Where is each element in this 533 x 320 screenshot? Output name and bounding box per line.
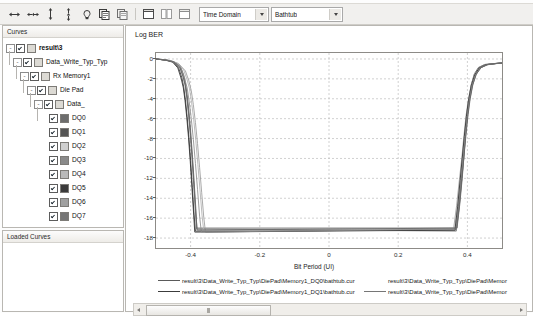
legend-horizontal-scrollbar[interactable] <box>133 303 527 316</box>
tree-node-datawritetyptyp[interactable]: -Data_Write_Typ_Typ <box>3 55 123 69</box>
checkbox-icon[interactable] <box>44 100 53 109</box>
tree-node-die pad[interactable]: -Die Pad <box>3 83 123 97</box>
legend-entry: result\3\Data_Write_Typ_Typ\DiePad\Memor <box>364 286 507 297</box>
checkbox-icon[interactable] <box>49 114 58 123</box>
tree-node-ldqs-ldqs[interactable]: LDQS-LDQS# <box>3 223 123 226</box>
scrollbar-track[interactable] <box>143 305 517 314</box>
tree-node-label: DQ4 <box>72 170 86 178</box>
tree-node-dq7[interactable]: DQ7 <box>3 209 123 223</box>
x-axis-title-text: Bit Period (UI) <box>294 263 334 270</box>
tree-spacer <box>41 185 48 192</box>
collapse-icon[interactable]: - <box>13 58 22 67</box>
tree-node-dq3[interactable]: DQ3 <box>3 153 123 167</box>
tree-node-result3[interactable]: -result\3 <box>3 41 123 55</box>
domain-select[interactable]: Time Domain <box>199 7 269 22</box>
vertical-delta-cursor-icon[interactable] <box>61 6 76 22</box>
legend-column-right: result\3\Data_Write_Typ_Typ\DiePad\Memor… <box>364 275 507 297</box>
horizontal-delta-cursor-icon[interactable] <box>25 6 40 22</box>
tile-window-icon[interactable] <box>159 6 174 22</box>
y-axis-tick-mark <box>153 177 156 178</box>
folder-icon <box>34 58 43 67</box>
checkbox-icon[interactable] <box>30 72 39 81</box>
x-axis-tick-label: -0.4 <box>185 251 196 258</box>
y-axis-tick-mark <box>153 237 156 238</box>
tree-node-dq4[interactable]: DQ4 <box>3 167 123 181</box>
curve-color-swatch <box>60 114 69 123</box>
curve-color-swatch <box>60 142 69 151</box>
tree-node-dq1[interactable]: DQ1 <box>3 125 123 139</box>
tree-node-label: DQ7 <box>72 212 86 220</box>
checkbox-icon[interactable] <box>49 226 58 227</box>
x-axis-title: Bit Period (UI) <box>126 263 532 270</box>
collapse-icon[interactable]: - <box>34 100 43 109</box>
loaded-curves-panel-header: Loaded Curves <box>3 231 123 243</box>
scroll-right-arrow-icon[interactable] <box>517 305 526 314</box>
copy-plot-icon[interactable] <box>97 6 112 22</box>
legend-label: result\3\Data_Write_Typ_Typ\DiePad\Memor… <box>182 289 355 295</box>
new-window-icon[interactable] <box>141 6 156 22</box>
checkbox-icon[interactable] <box>49 128 58 137</box>
curve-color-swatch <box>60 184 69 193</box>
curves-tree[interactable]: -result\3-Data_Write_Typ_Typ-Rx Memory1-… <box>3 38 123 226</box>
tree-node-label: DQ6 <box>72 198 86 206</box>
tree-node-dq6[interactable]: DQ6 <box>3 195 123 209</box>
checkbox-icon[interactable] <box>49 198 58 207</box>
checkbox-icon[interactable] <box>16 44 25 53</box>
checkbox-icon[interactable] <box>49 184 58 193</box>
collapse-icon[interactable]: - <box>27 86 36 95</box>
tree-spacer <box>41 129 48 136</box>
curve-color-swatch <box>60 226 69 227</box>
tree-node-dq2[interactable]: DQ2 <box>3 139 123 153</box>
y-axis-tick-mark <box>153 58 156 59</box>
chevron-down-icon[interactable] <box>329 9 341 20</box>
scrollbar-grip <box>207 308 210 313</box>
tree-node-dq5[interactable]: DQ5 <box>3 181 123 195</box>
vertical-cursor-icon[interactable] <box>43 6 58 22</box>
toolbar-icon-group <box>0 6 192 22</box>
maximize-window-icon[interactable] <box>177 6 192 22</box>
loaded-curves-list[interactable] <box>3 243 123 320</box>
tree-node-label: Data_Write_Typ_Typ <box>46 58 107 66</box>
chevron-down-icon[interactable] <box>255 9 267 20</box>
tree-node-data[interactable]: -Data_ <box>3 97 123 111</box>
checkbox-icon[interactable] <box>49 142 58 151</box>
tree-spacer <box>41 213 48 220</box>
tree-spacer <box>41 199 48 206</box>
tree-node-rx memory1[interactable]: -Rx Memory1 <box>3 69 123 83</box>
tree-node-label: DQ0 <box>72 114 86 122</box>
copy-data-icon[interactable] <box>115 6 130 22</box>
legend-color-line <box>158 291 180 292</box>
tree-node-label: DQ5 <box>72 184 86 192</box>
chart-panel: Log BER 0-2-4-6-8-10-12-14-16-18 -0.4-0.… <box>125 25 533 312</box>
chart-title: Log BER <box>135 31 163 38</box>
legend-label: result\3\Data_Write_Typ_Typ\DiePad\Memor <box>388 278 507 284</box>
horizontal-cursor-icon[interactable] <box>7 6 22 22</box>
tree-node-label: DQ2 <box>72 142 86 150</box>
tree-guide-line <box>23 79 24 93</box>
curves-panel-header: Curves <box>3 26 123 38</box>
checkbox-icon[interactable] <box>49 170 58 179</box>
checkbox-icon[interactable] <box>37 86 46 95</box>
plot-type-select[interactable]: Bathtub <box>271 7 343 22</box>
legend-entry: result\3\Data_Write_Typ_Typ\DiePad\Memor… <box>158 286 355 297</box>
loaded-curves-panel: Loaded Curves <box>2 230 124 312</box>
scroll-left-arrow-icon[interactable] <box>134 305 143 314</box>
plot-type-select-value: Bathtub <box>275 8 297 21</box>
collapse-icon[interactable]: - <box>6 44 15 53</box>
tree-spacer <box>41 157 48 164</box>
legend-color-line <box>364 280 386 281</box>
tree-node-dq0[interactable]: DQ0 <box>3 111 123 125</box>
tree-node-label: Data_ <box>67 100 85 108</box>
checkbox-icon[interactable] <box>49 156 58 165</box>
y-axis-tick-mark <box>153 157 156 158</box>
checkbox-icon[interactable] <box>23 58 32 67</box>
plot-area[interactable] <box>155 52 503 249</box>
collapse-icon[interactable]: - <box>20 72 29 81</box>
legend-color-line <box>364 291 386 292</box>
checkbox-icon[interactable] <box>49 212 58 221</box>
y-axis-tick-label: -12 <box>144 174 153 181</box>
scrollbar-thumb[interactable] <box>146 305 271 316</box>
tree-node-label: DQ3 <box>72 156 86 164</box>
measure-icon[interactable] <box>79 6 94 22</box>
